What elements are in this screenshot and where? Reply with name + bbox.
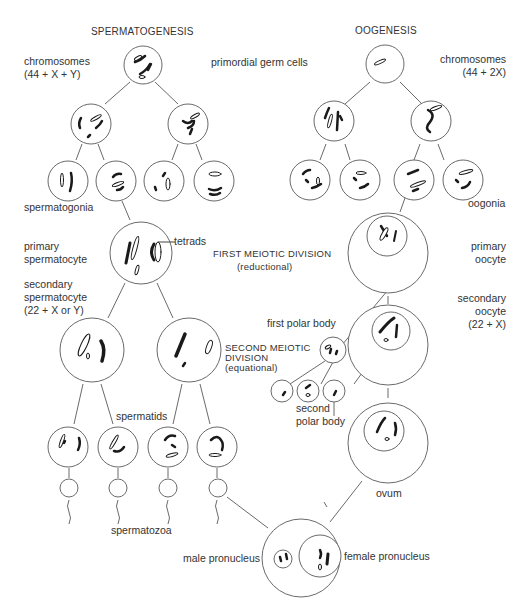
label-secondary-oocyte-line1: secondary xyxy=(440,292,506,305)
label-primary-oocyte-line1: primary xyxy=(460,240,506,253)
label-second-polar-body-line2: polar body xyxy=(296,415,345,428)
label-primary-spermatocyte-line2: spermatocyte xyxy=(24,253,87,266)
label-second-polar-body-line1: second xyxy=(296,402,345,415)
label-spermatogonia: spermatogonia xyxy=(24,201,93,214)
label-secondary-spermatocyte-line1: secondary xyxy=(24,278,87,291)
title-spermatogenesis: SPERMATOGENESIS xyxy=(91,25,194,38)
label-chromosomes-male: chromosomes (44 + X + Y) xyxy=(24,55,90,81)
label-secondary-oocyte-line2: oocyte xyxy=(440,305,506,318)
label-spermatids: spermatids xyxy=(116,410,167,423)
label-second-polar-body: second polar body xyxy=(296,402,345,428)
label-first-meiotic-line2: (reductional) xyxy=(213,260,331,273)
label-secondary-oocyte-line3: (22 + X) xyxy=(440,318,506,331)
label-primary-oocyte: primary oocyte xyxy=(460,240,506,266)
label-chromosomes-female-line1: chromosomes xyxy=(440,53,506,66)
label-secondary-spermatocyte: secondary spermatocyte (22 + X or Y) xyxy=(24,278,87,317)
label-male-pronucleus: male pronucleus xyxy=(183,552,260,565)
label-chromosomes-female: chromosomes (44 + 2X) xyxy=(440,53,506,79)
label-secondary-spermatocyte-line2: spermatocyte xyxy=(24,291,87,304)
label-chromosomes-female-line2: (44 + 2X) xyxy=(440,66,506,79)
title-oogenesis: OOGENESIS xyxy=(355,24,417,37)
label-tetrads: tetrads xyxy=(174,235,206,248)
label-second-meiotic-line3: (equational) xyxy=(225,363,311,373)
label-primary-spermatocyte: primary spermatocyte xyxy=(24,240,87,266)
label-first-meiotic-line1: FIRST MEIOTIC DIVISION xyxy=(213,247,331,260)
label-chromosomes-male-line2: (44 + X + Y) xyxy=(24,68,90,81)
label-first-meiotic-division: FIRST MEIOTIC DIVISION (reductional) xyxy=(213,247,331,273)
label-female-pronucleus: female pronucleus xyxy=(344,550,430,563)
label-spermatozoa: spermatozoa xyxy=(111,524,172,537)
label-secondary-oocyte: secondary oocyte (22 + X) xyxy=(440,292,506,331)
label-primary-oocyte-line2: oocyte xyxy=(460,253,506,266)
label-second-meiotic-division: SECOND MEIOTIC DIVISION (equational) xyxy=(225,343,311,373)
label-first-polar-body: first polar body xyxy=(267,317,336,330)
tetrads-pointer-line xyxy=(158,239,176,245)
label-secondary-spermatocyte-line3: (22 + X or Y) xyxy=(24,304,87,317)
label-primordial-germ-cells: primordial germ cells xyxy=(211,56,308,69)
label-oogonia: oogonia xyxy=(468,197,505,210)
label-chromosomes-male-line1: chromosomes xyxy=(24,55,90,68)
label-ovum: ovum xyxy=(376,487,402,500)
label-primary-spermatocyte-line1: primary xyxy=(24,240,87,253)
